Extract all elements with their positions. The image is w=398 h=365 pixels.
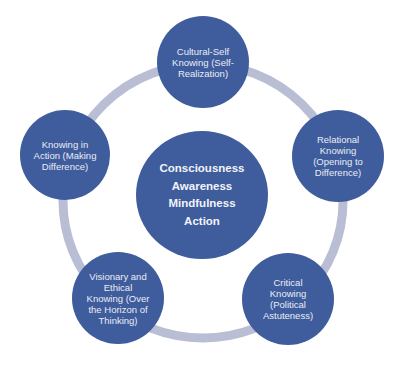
node-label: Relational Knowing (Opening to Differenc… bbox=[307, 134, 369, 178]
node-label: Knowing in Action (Making Difference) bbox=[28, 139, 103, 172]
node-label: Cultural-Self Knowing (Self- Realization… bbox=[166, 46, 240, 79]
node-label: Critical Knowing (Political Astuteness) bbox=[257, 277, 319, 321]
node-cultural-self-knowing: Cultural-Self Knowing (Self- Realization… bbox=[157, 16, 249, 108]
node-relational-knowing: Relational Knowing (Opening to Differenc… bbox=[292, 110, 384, 202]
node-critical-knowing: Critical Knowing (Political Astuteness) bbox=[242, 253, 334, 345]
node-knowing-in-action: Knowing in Action (Making Difference) bbox=[20, 110, 110, 200]
node-visionary-ethical-knowing: Visionary and Ethical Knowing (Over the … bbox=[72, 252, 164, 344]
knowing-cycle-diagram: Consciousness Awareness Mindfulness Acti… bbox=[0, 0, 398, 365]
node-label: Visionary and Ethical Knowing (Over the … bbox=[81, 271, 156, 326]
center-node-label: Consciousness Awareness Mindfulness Acti… bbox=[154, 160, 251, 230]
center-node: Consciousness Awareness Mindfulness Acti… bbox=[136, 131, 268, 259]
